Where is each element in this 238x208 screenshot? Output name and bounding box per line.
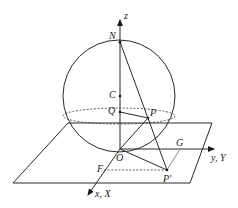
stereographic-projection-diagram: z N C Q P O F G P′ y, Y x, X: [0, 0, 238, 208]
label-x-axis: x, X: [94, 188, 111, 199]
label-g: G: [176, 137, 183, 148]
label-n: N: [108, 30, 117, 41]
segment-q-p: [120, 112, 148, 118]
label-c: C: [109, 89, 116, 100]
point-q: [119, 111, 122, 114]
point-p-prime: [166, 169, 169, 172]
equator-ellipse: [63, 108, 175, 124]
xy-plane: [13, 123, 212, 183]
label-p: P: [149, 107, 156, 118]
label-p-prime: P′: [162, 173, 172, 184]
segment-g-p-prime: [167, 149, 180, 170]
diagram-svg: z N C Q P O F G P′ y, Y x, X: [0, 0, 238, 208]
label-z: z: [123, 10, 128, 21]
point-n: [119, 41, 122, 44]
point-c: [119, 95, 122, 98]
line-n-to-p-prime: [120, 42, 167, 170]
label-q: Q: [108, 105, 116, 116]
label-y-axis: y, Y: [210, 152, 227, 163]
label-o: O: [116, 152, 123, 163]
label-f: F: [96, 163, 104, 174]
point-p: [147, 117, 150, 120]
